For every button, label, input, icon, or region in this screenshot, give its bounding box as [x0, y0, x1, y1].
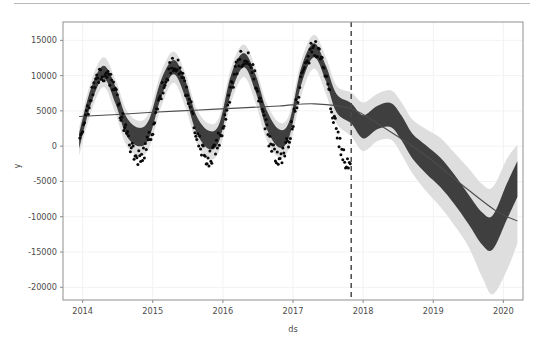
y-axis-title: y [12, 163, 22, 168]
observed-point [288, 141, 291, 144]
chart-canvas: 2014201520162017201820192020 15000100005… [0, 8, 542, 340]
observed-point [307, 55, 310, 58]
observed-point [153, 121, 156, 124]
observed-point [227, 94, 230, 97]
observed-point [215, 139, 218, 142]
observed-point [216, 146, 219, 149]
observed-point [93, 86, 96, 89]
observed-point [239, 50, 242, 53]
observed-point [181, 72, 184, 75]
observed-point [281, 146, 284, 149]
observed-point [132, 145, 135, 148]
x-tick-label: 2020 [493, 306, 514, 316]
observed-point [199, 147, 202, 150]
observed-point [273, 148, 276, 151]
observed-point [256, 90, 259, 93]
observed-point [186, 94, 189, 97]
observed-point [298, 86, 301, 89]
observed-point [90, 99, 93, 102]
observed-point [272, 144, 275, 147]
observed-point [299, 75, 302, 78]
observed-point [224, 118, 227, 121]
observed-point [115, 88, 118, 91]
observed-point [90, 86, 93, 89]
observed-point [141, 159, 144, 162]
observed-point [252, 78, 255, 81]
observed-point [166, 78, 169, 81]
observed-point [81, 130, 84, 133]
observed-point [343, 161, 346, 164]
observed-point [221, 134, 224, 137]
observed-point [112, 80, 115, 83]
observed-point [262, 110, 265, 113]
observed-point [289, 137, 292, 140]
observed-point [207, 165, 210, 168]
observed-point [207, 157, 210, 160]
observed-point [255, 87, 258, 90]
observed-point [124, 123, 127, 126]
y-tick-label: -15000 [28, 247, 57, 257]
observed-point [176, 68, 179, 71]
observed-point [338, 137, 341, 140]
observed-point [251, 71, 254, 74]
observed-point [295, 106, 298, 109]
x-tick-label: 2014 [72, 306, 93, 316]
observed-point [294, 110, 297, 113]
observed-point [146, 136, 149, 139]
observed-point [290, 120, 293, 123]
observed-point [242, 63, 245, 66]
observed-point [346, 157, 349, 160]
observed-point [105, 76, 108, 79]
observed-point [108, 84, 111, 87]
observed-point [218, 144, 221, 147]
observed-point [194, 135, 197, 138]
observed-point [259, 97, 262, 100]
observed-point [120, 119, 123, 122]
observed-point [148, 131, 151, 134]
observed-point [225, 109, 228, 112]
observed-point [192, 112, 195, 115]
x-tick-label: 2019 [423, 306, 444, 316]
observed-point [187, 102, 190, 105]
observed-point [193, 131, 196, 134]
observed-point [84, 113, 87, 116]
observed-point [142, 147, 145, 150]
observed-point [250, 66, 253, 69]
observed-point [223, 113, 226, 116]
observed-point [229, 86, 232, 89]
observed-point [151, 133, 154, 136]
observed-point [236, 72, 239, 75]
observed-point [101, 75, 104, 78]
x-tick-label: 2017 [283, 306, 304, 316]
observed-point [189, 106, 192, 109]
observed-point [133, 158, 136, 161]
observed-point [318, 48, 321, 51]
observed-point [228, 101, 231, 104]
observed-point [263, 114, 266, 117]
figure-page: 2014201520162017201820192020 15000100005… [0, 0, 542, 340]
observed-point [106, 70, 109, 73]
observed-point [265, 118, 268, 121]
observed-point [99, 68, 102, 71]
observed-point [135, 156, 138, 159]
observed-point [192, 126, 195, 129]
observed-point [210, 162, 213, 165]
y-tick-label: -10000 [28, 212, 57, 222]
observed-point [149, 138, 152, 141]
forecast-chart: 2014201520162017201820192020 15000100005… [0, 8, 542, 340]
observed-point [163, 84, 166, 87]
observed-point [83, 121, 86, 124]
y-tick-label: 5000 [36, 106, 57, 116]
observed-point [126, 130, 129, 133]
observed-point [87, 113, 90, 116]
observed-point [251, 63, 254, 66]
observed-point [335, 127, 338, 130]
observed-point [309, 48, 312, 51]
observed-point [178, 66, 181, 69]
observed-point [237, 65, 240, 68]
observed-point [162, 92, 165, 95]
observed-point [328, 88, 331, 91]
y-tick-label: -20000 [28, 282, 57, 292]
observed-point [136, 163, 139, 166]
observed-point [296, 101, 299, 104]
